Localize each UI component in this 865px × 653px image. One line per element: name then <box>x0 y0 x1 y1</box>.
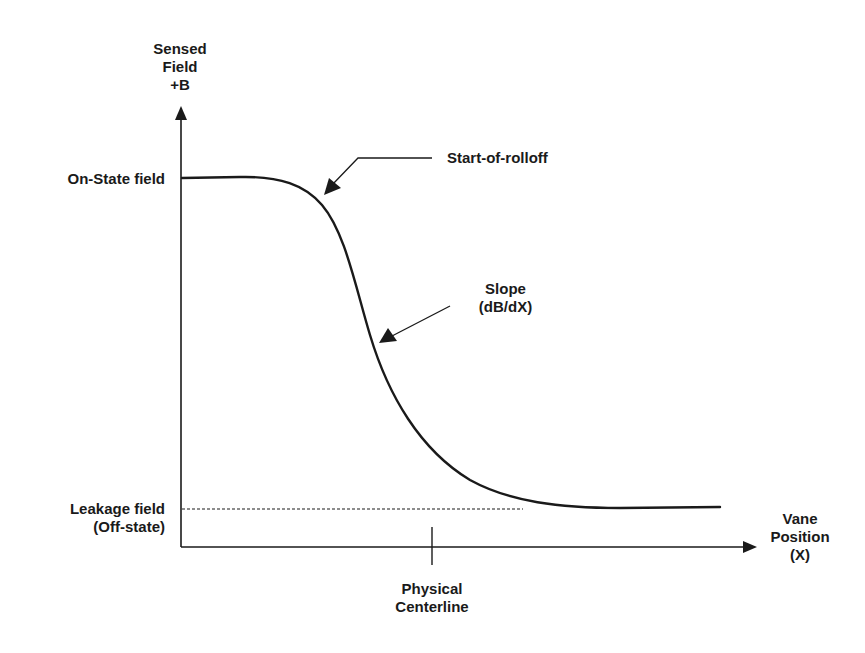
start-rolloff-label: Start-of-rolloff <box>447 149 548 167</box>
response-curve <box>182 177 720 508</box>
centerline-label-line: Physical <box>382 580 482 598</box>
leakage-label: Leakage field (Off-state) <box>0 500 165 536</box>
slope-label-line: Slope <box>468 280 543 298</box>
x-axis-title-line: (X) <box>760 546 840 564</box>
y-axis-title: Sensed Field +B <box>140 40 220 94</box>
y-axis-arrow-icon <box>175 106 187 120</box>
leakage-label-line: (Off-state) <box>0 518 165 536</box>
rolloff-arrow-icon <box>324 178 341 195</box>
chart-canvas <box>0 0 865 653</box>
y-axis-title-line: +B <box>140 76 220 94</box>
y-axis-title-line: Sensed <box>140 40 220 58</box>
x-axis-arrow-icon <box>743 541 757 553</box>
x-axis-title: Vane Position (X) <box>760 510 840 564</box>
slope-leader-line <box>392 306 450 336</box>
x-axis-title-line: Position <box>760 528 840 546</box>
leakage-label-line: Leakage field <box>0 500 165 518</box>
x-axis-title-line: Vane <box>760 510 840 528</box>
slope-label-line: (dB/dX) <box>468 298 543 316</box>
slope-label: Slope (dB/dX) <box>468 280 543 316</box>
rolloff-leader-line <box>332 158 432 185</box>
y-axis-title-line: Field <box>140 58 220 76</box>
centerline-label-line: Centerline <box>382 598 482 616</box>
on-state-label: On-State field <box>0 170 165 188</box>
centerline-label: Physical Centerline <box>382 580 482 616</box>
